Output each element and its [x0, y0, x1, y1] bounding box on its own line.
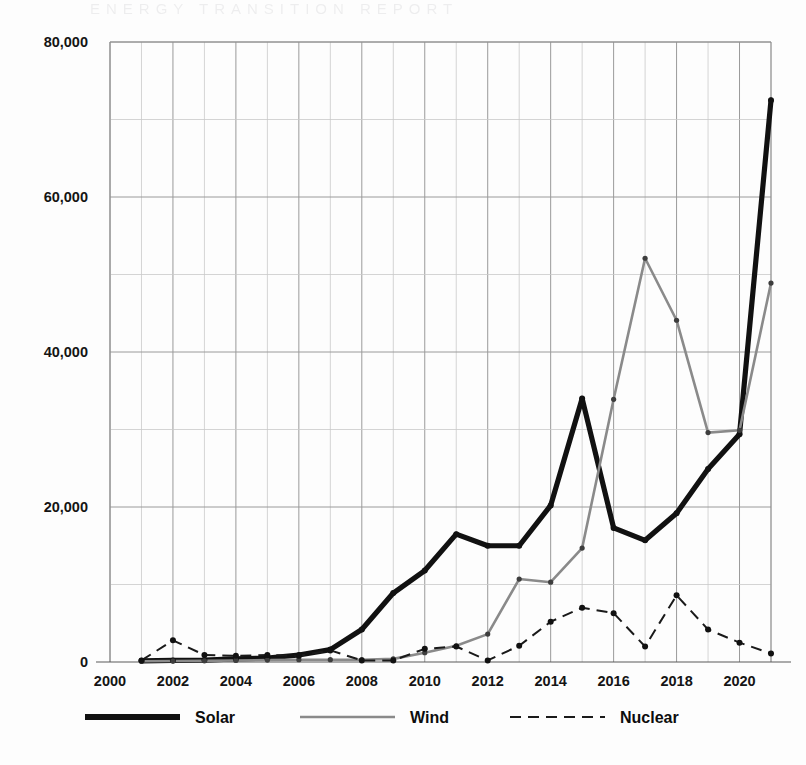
data-point-nuclear-2012	[485, 657, 491, 663]
data-point-wind-2020	[737, 428, 742, 433]
y-tick-label: 80,000	[44, 34, 88, 50]
data-point-wind-2007	[328, 657, 333, 662]
data-point-wind-2003	[202, 658, 207, 663]
line-chart-figure: 020,00040,00060,00080,000 20002002200420…	[0, 0, 806, 765]
data-point-wind-2005	[265, 657, 270, 662]
data-point-wind-2018	[674, 318, 679, 323]
data-point-wind-2019	[705, 430, 710, 435]
legend-item-nuclear[interactable]: Nuclear	[510, 709, 679, 726]
data-point-wind-2013	[517, 576, 522, 581]
legend-item-wind[interactable]: Wind	[300, 709, 449, 726]
data-point-solar-2010	[422, 568, 428, 574]
data-point-nuclear-2002	[170, 637, 176, 643]
data-point-nuclear-2016	[611, 610, 617, 616]
x-tick-label: 2014	[535, 673, 567, 689]
data-point-solar-2017	[642, 537, 648, 543]
data-point-solar-2012	[485, 543, 491, 549]
data-point-solar-2011	[453, 531, 459, 537]
data-point-nuclear-2014	[548, 619, 554, 625]
data-point-wind-2021	[768, 280, 773, 285]
x-tick-label: 2018	[660, 673, 692, 689]
x-tick-label: 2004	[220, 673, 252, 689]
x-tick-label: 2016	[597, 673, 629, 689]
data-point-nuclear-2018	[674, 592, 680, 598]
y-tick-label: 60,000	[44, 189, 88, 205]
data-point-wind-2014	[548, 580, 553, 585]
legend-label-nuclear: Nuclear	[620, 709, 679, 726]
chart-legend: SolarWindNuclear	[85, 709, 679, 726]
y-tick-label: 40,000	[44, 344, 88, 360]
legend-label-wind: Wind	[410, 709, 449, 726]
data-point-wind-2016	[611, 397, 616, 402]
x-tick-label: 2008	[346, 673, 378, 689]
data-point-nuclear-2013	[516, 643, 522, 649]
data-point-solar-2015	[579, 396, 585, 402]
data-point-nuclear-2017	[642, 644, 648, 650]
y-axis-tick-labels: 020,00040,00060,00080,000	[44, 34, 88, 670]
legend-label-solar: Solar	[195, 709, 235, 726]
data-point-nuclear-2011	[453, 644, 459, 650]
x-tick-label: 2006	[283, 673, 315, 689]
data-point-solar-2008	[359, 626, 365, 632]
x-tick-label: 2002	[157, 673, 189, 689]
legend-item-solar[interactable]: Solar	[85, 709, 235, 726]
data-point-solar-2019	[705, 466, 711, 472]
x-tick-label: 2012	[472, 673, 504, 689]
data-point-wind-2002	[170, 658, 175, 663]
data-point-nuclear-2007	[327, 647, 333, 653]
data-point-nuclear-2020	[737, 640, 743, 646]
data-point-nuclear-2006	[296, 653, 302, 659]
chart-page: ENERGY TRANSITION REPORT 020,00040,00060…	[0, 0, 806, 765]
data-point-solar-2018	[674, 510, 680, 516]
x-axis-tick-labels: 2000200220042006200820102012201420162018…	[94, 673, 756, 689]
data-point-nuclear-2019	[705, 626, 711, 632]
data-point-solar-2009	[390, 590, 396, 596]
data-point-wind-2017	[642, 256, 647, 261]
data-point-nuclear-2008	[359, 657, 365, 663]
y-tick-label: 20,000	[44, 499, 88, 515]
data-point-nuclear-2021	[768, 650, 774, 656]
data-point-solar-2021	[768, 97, 774, 103]
data-point-nuclear-2001	[138, 657, 144, 663]
x-tick-label: 2010	[409, 673, 441, 689]
data-point-nuclear-2004	[233, 653, 239, 659]
data-point-nuclear-2009	[390, 657, 396, 663]
data-point-wind-2012	[485, 632, 490, 637]
data-point-nuclear-2015	[579, 605, 585, 611]
data-point-nuclear-2003	[201, 652, 207, 658]
x-tick-label: 2020	[723, 673, 755, 689]
data-point-solar-2016	[611, 525, 617, 531]
data-point-wind-2015	[580, 545, 585, 550]
y-tick-label: 0	[80, 654, 88, 670]
data-point-solar-2013	[516, 543, 522, 549]
data-point-solar-2014	[548, 502, 554, 508]
data-point-nuclear-2005	[264, 652, 270, 658]
x-tick-label: 2000	[94, 673, 126, 689]
data-point-nuclear-2010	[422, 646, 428, 652]
